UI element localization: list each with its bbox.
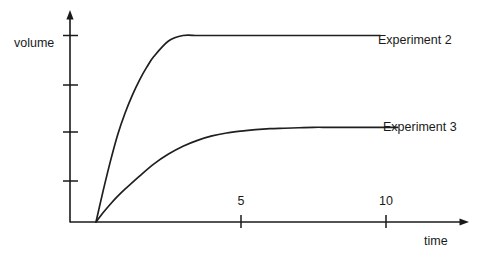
y-axis-arrow-icon	[66, 10, 73, 20]
x-axis	[70, 218, 469, 225]
y-axis-title: volume	[14, 36, 54, 50]
series-line-experiment-3	[96, 127, 398, 222]
x-axis-title: time	[424, 234, 448, 248]
x-axis-arrow-icon	[460, 218, 470, 225]
chart-canvas: 5 10 volume time Experiment 2 Experiment…	[0, 0, 482, 256]
line-chart: 5 10 volume time Experiment 2 Experiment…	[0, 0, 482, 256]
series-label-experiment-2: Experiment 2	[378, 33, 452, 47]
y-axis	[66, 10, 73, 223]
x-tick-label-5: 5	[238, 194, 245, 208]
series-label-experiment-3: Experiment 3	[383, 120, 457, 134]
x-tick-label-10: 10	[379, 194, 393, 208]
